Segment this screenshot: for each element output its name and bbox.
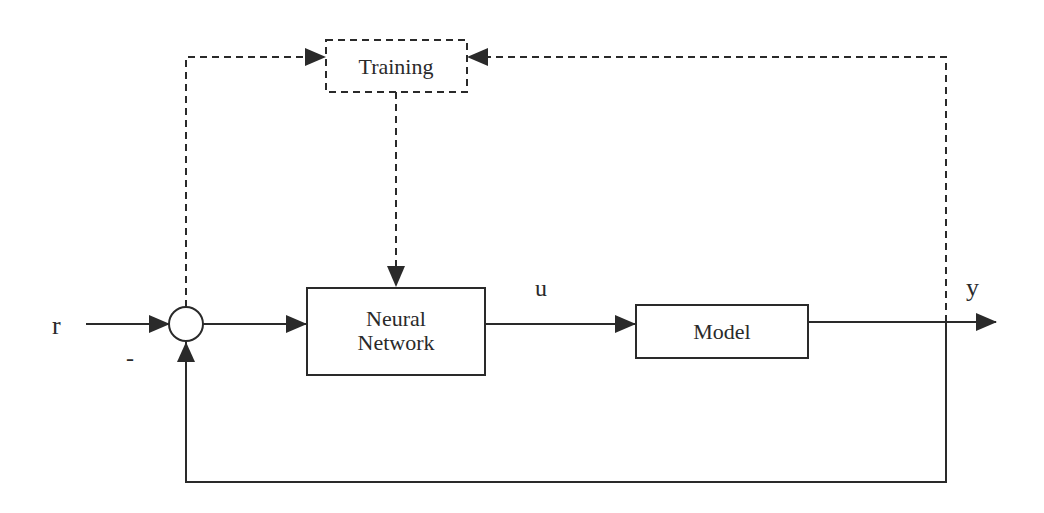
output-label: y	[966, 273, 979, 302]
model-label: Model	[693, 319, 750, 344]
feedback-sign-label: -	[126, 345, 134, 371]
model-block: Model	[636, 305, 808, 358]
summing-junction	[169, 307, 203, 341]
training-label: Training	[359, 54, 434, 79]
neural-network-block: Neural Network	[307, 288, 485, 375]
control-label: u	[535, 275, 547, 301]
feedback-path	[186, 322, 946, 482]
control-loop-diagram: r - Neural Network u Model y Training	[0, 0, 1044, 513]
training-to-nn-arrow-icon	[387, 266, 405, 287]
training-output-arrow-icon	[467, 48, 488, 66]
training-block: Training	[326, 40, 467, 92]
error-to-training-path	[186, 57, 306, 307]
neural-network-label-line2: Network	[358, 330, 435, 355]
output-to-training-path	[488, 57, 946, 322]
training-input-arrow-icon	[305, 48, 326, 66]
neural-network-label-line1: Neural	[366, 306, 426, 331]
reference-label: r	[52, 311, 61, 340]
feedback-arrow-icon	[177, 342, 195, 362]
